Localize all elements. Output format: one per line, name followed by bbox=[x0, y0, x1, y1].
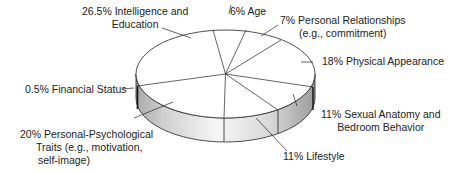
label-intelligence: 26.5% Intelligence and Education bbox=[82, 5, 188, 31]
label-psych: 20% Personal-Psychological Traits (e.g.,… bbox=[20, 128, 153, 167]
label-sexual: 11% Sexual Anatomy and Bedroom Behavior bbox=[321, 108, 440, 134]
label-age: 6% Age bbox=[230, 5, 266, 18]
label-relationships: 7% Personal Relationships (e.g., commitm… bbox=[280, 14, 406, 40]
label-financial: 0.5% Financial Status bbox=[25, 83, 127, 96]
label-lifestyle: 11% Lifestyle bbox=[283, 150, 345, 163]
label-appearance: 18% Physical Appearance bbox=[322, 55, 444, 68]
